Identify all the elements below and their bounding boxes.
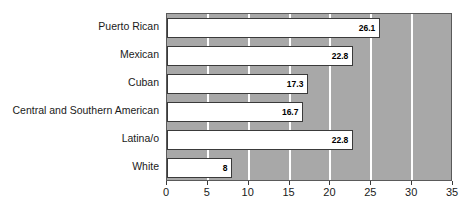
axis-tick-mark xyxy=(329,181,330,185)
bar-row: 22.8 xyxy=(167,130,453,150)
category-label: Latina/o xyxy=(0,133,159,144)
gridline xyxy=(411,14,413,180)
axis-tick-label: 20 xyxy=(314,186,344,198)
plot-area: 26.122.817.316.722.88 xyxy=(166,13,452,181)
axis-tick-mark xyxy=(289,181,290,185)
category-label: Central and Southern American xyxy=(0,105,159,116)
category-label: Mexican xyxy=(0,49,159,60)
category-label: Puerto Rican xyxy=(0,21,159,32)
bar-value-label: 22.8 xyxy=(167,130,348,150)
axis-tick-mark xyxy=(452,181,453,185)
axis-tick-mark xyxy=(207,181,208,185)
axis-tick-label: 15 xyxy=(274,186,304,198)
bar-row: 8 xyxy=(167,158,453,178)
axis-tick-label: 25 xyxy=(355,186,385,198)
bar-row: 17.3 xyxy=(167,74,453,94)
category-axis: Puerto RicanMexicanCubanCentral and Sout… xyxy=(0,13,163,181)
axis-tick-mark xyxy=(411,181,412,185)
axis-tick-label: 30 xyxy=(396,186,426,198)
bar-value-label: 26.1 xyxy=(167,18,375,38)
value-axis: 05101520253035 xyxy=(166,181,452,203)
gridline xyxy=(370,14,372,180)
gridline xyxy=(329,14,331,180)
gridline xyxy=(289,14,291,180)
axis-tick-mark xyxy=(248,181,249,185)
gridline xyxy=(207,14,209,180)
axis-tick-label: 5 xyxy=(192,186,222,198)
axis-tick-mark xyxy=(166,181,167,185)
category-label: White xyxy=(0,161,159,172)
bar-value-label: 8 xyxy=(167,158,227,178)
axis-tick-label: 10 xyxy=(233,186,263,198)
bar-value-label: 17.3 xyxy=(167,74,303,94)
bar-row: 26.1 xyxy=(167,18,453,38)
category-label: Cuban xyxy=(0,77,159,88)
axis-tick-label: 0 xyxy=(151,186,181,198)
bar-row: 22.8 xyxy=(167,46,453,66)
axis-tick-label: 35 xyxy=(437,186,467,198)
bar-value-label: 16.7 xyxy=(167,102,298,122)
bar-row: 16.7 xyxy=(167,102,453,122)
axis-tick-mark xyxy=(370,181,371,185)
bar-chart-figure: Puerto RicanMexicanCubanCentral and Sout… xyxy=(0,0,473,215)
gridline xyxy=(248,14,250,180)
bar-value-label: 22.8 xyxy=(167,46,348,66)
